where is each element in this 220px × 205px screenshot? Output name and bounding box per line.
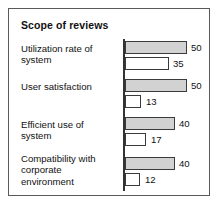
bar-value-label: 13	[146, 95, 157, 108]
category-label: Compatibility with corporate environment	[21, 153, 121, 187]
bar-group: User satisfaction 50 13	[9, 79, 211, 115]
category-label: Utilization rate of system	[21, 43, 121, 66]
category-label-line: Utilization rate of	[21, 43, 121, 54]
bar-value-label: 50	[191, 79, 202, 92]
category-label-line: environment	[21, 176, 121, 187]
bar-value-label: 17	[151, 133, 162, 146]
bar-hollow[interactable]	[125, 173, 140, 186]
bar-value-label: 40	[179, 117, 190, 130]
chart-figure: Scope of reviews Utilization rate of sys…	[8, 8, 210, 196]
category-label: Efficient use of system	[21, 119, 121, 142]
category-label-line: system	[21, 54, 121, 65]
bar-hollow[interactable]	[125, 133, 146, 146]
bar-hollow[interactable]	[125, 57, 169, 70]
bar-group: Compatibility with corporate environment…	[9, 153, 211, 193]
category-label-line: User satisfaction	[21, 81, 121, 92]
bar-value-label: 12	[145, 173, 156, 186]
bar-group: Utilization rate of system 50 35	[9, 41, 211, 77]
category-label-line: system	[21, 130, 121, 141]
bar-filled[interactable]	[125, 79, 187, 92]
category-label-line: corporate	[21, 164, 121, 175]
category-label: User satisfaction	[21, 81, 121, 92]
plot-area: Utilization rate of system 50 35 User sa…	[9, 9, 211, 197]
category-label-line: Compatibility with	[21, 153, 121, 164]
bar-group: Efficient use of system 40 17	[9, 117, 211, 153]
category-label-line: Efficient use of	[21, 119, 121, 130]
bar-value-label: 50	[191, 41, 202, 54]
bar-value-label: 35	[173, 57, 184, 70]
bar-value-label: 40	[179, 157, 190, 170]
bar-filled[interactable]	[125, 157, 175, 170]
bar-filled[interactable]	[125, 117, 175, 130]
bar-hollow[interactable]	[125, 95, 141, 108]
bar-filled[interactable]	[125, 41, 187, 54]
